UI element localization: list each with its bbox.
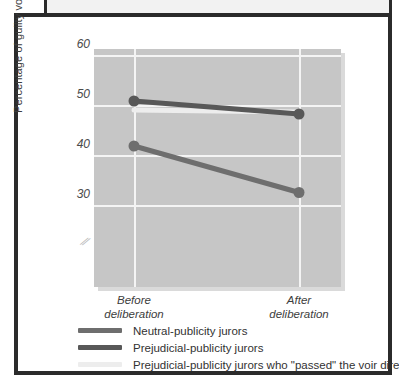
legend: Neutral-publicity jurors Prejudicial-pub… xyxy=(78,322,398,373)
x-tick-after-line2: deliberation xyxy=(234,307,364,321)
caption-strip xyxy=(44,0,392,13)
y-tick-label-60: 60 xyxy=(62,37,90,51)
x-tick-after-line1: After xyxy=(234,293,364,307)
figure-frame: Percentage of guilty votes 60 50 40 30 ⁄… xyxy=(14,13,392,375)
series-point-prejudicial-before xyxy=(129,96,140,107)
caption-strip-text xyxy=(47,0,389,2)
legend-label-prejudicial: Prejudicial-publicity jurors xyxy=(133,342,263,354)
y-tick-label-50: 50 xyxy=(62,87,90,101)
legend-label-neutral: Neutral-publicity jurors xyxy=(133,325,247,337)
legend-label-passed: Prejudicial-publicity jurors who "passed… xyxy=(133,359,399,371)
x-tick-label-after: After deliberation xyxy=(234,293,364,322)
legend-swatch-passed xyxy=(78,362,122,367)
legend-item-neutral: Neutral-publicity jurors xyxy=(78,322,398,339)
legend-item-prejudicial: Prejudicial-publicity jurors xyxy=(78,339,398,356)
plot-area xyxy=(94,49,341,287)
x-tick-label-before: Before deliberation xyxy=(69,293,199,322)
series-point-neutral-before xyxy=(129,141,140,152)
series-line-neutral xyxy=(134,146,299,193)
legend-swatch-neutral xyxy=(78,328,122,333)
x-tick-before-line1: Before xyxy=(69,293,199,307)
y-axis-title: Percentage of guilty votes xyxy=(12,0,24,113)
series-point-prejudicial-after xyxy=(294,109,305,120)
x-tick-before-line2: deliberation xyxy=(69,307,199,321)
y-tick-label-40: 40 xyxy=(62,137,90,151)
y-tick-label-30: 30 xyxy=(62,187,90,201)
series-point-neutral-after xyxy=(294,187,305,198)
series-layer xyxy=(94,49,341,287)
legend-swatch-prejudicial xyxy=(78,345,122,350)
legend-item-passed: Prejudicial-publicity jurors who "passed… xyxy=(78,356,398,373)
